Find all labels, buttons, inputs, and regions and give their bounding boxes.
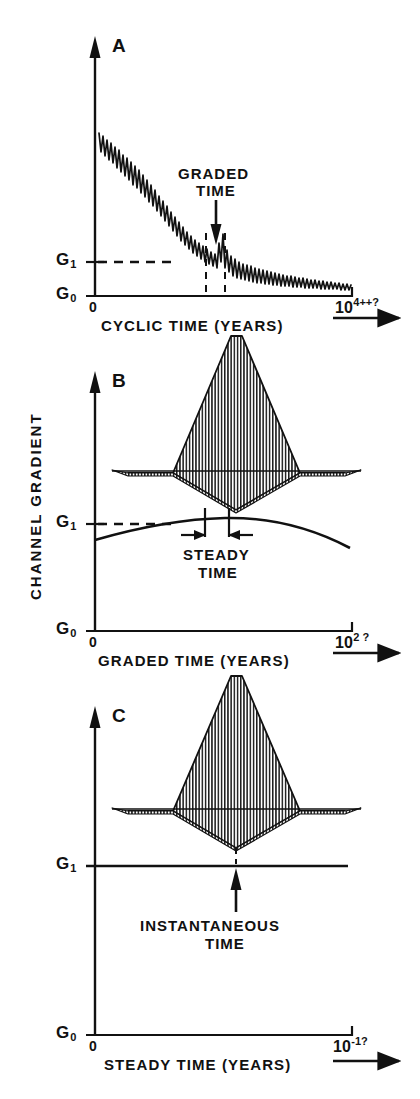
panel-a-g1-subscript: 1 — [70, 258, 76, 270]
panel-b-end-mantissa: 10 — [335, 634, 353, 651]
panel-a-annotation-line1: GRADED — [178, 166, 249, 182]
panel-letter-a: A — [112, 36, 126, 56]
panel-a-x-axis-title: CYCLIC TIME (YEARS) — [101, 318, 284, 334]
double-outward-arrow-icon — [181, 530, 253, 540]
figure-root: CHANNEL GRADIENT — [0, 0, 420, 1099]
panel-b-g1-subscript: 1 — [70, 520, 76, 532]
panel-b-g1-letter: G — [56, 512, 69, 531]
panel-a-end-exponent: 4++? — [353, 296, 379, 308]
panel-b-g0-letter: G — [56, 619, 69, 638]
panel-a-g1-label: G1 — [56, 251, 75, 269]
panel-b-x-axis — [86, 622, 352, 632]
panel-a-y-axis — [90, 36, 101, 296]
panel-b-g1-label: G1 — [56, 513, 75, 531]
panel-b-x-axis-title: GRADED TIME (YEARS) — [98, 653, 290, 669]
panel-c-x-axis — [86, 1026, 352, 1036]
panel-a-g0-subscript: 0 — [70, 292, 76, 304]
panel-a-x-axis — [86, 287, 352, 297]
panel-b-bowtie-symbol — [112, 336, 361, 513]
y-axis-arrowhead-b — [90, 371, 101, 393]
panel-b-annotation-line2: TIME — [198, 565, 238, 581]
panel-b-origin-label: 0 — [89, 635, 97, 650]
panel-c-annotation-line2: TIME — [205, 936, 245, 952]
panel-a-x-axis-end-value: 104++? — [335, 300, 378, 317]
panel-b-plot — [86, 336, 399, 653]
up-arrow-icon — [231, 868, 242, 912]
panel-c-x-axis-end-value: 10-1? — [333, 1039, 367, 1056]
panel-a-g1-letter: G — [56, 250, 69, 269]
panel-letter-b: B — [112, 371, 126, 391]
panel-c-g1-subscript: 1 — [70, 862, 76, 874]
panel-b-g0-label: G0 — [56, 620, 75, 638]
panel-b-annotation-line1: STEADY — [183, 547, 250, 563]
panel-a-end-mantissa: 10 — [335, 299, 353, 316]
panel-b-gradient-curve — [95, 518, 350, 548]
panel-c-g0-subscript: 0 — [70, 1031, 76, 1043]
panel-a-g0-letter: G — [56, 284, 69, 303]
panel-letter-c: C — [112, 706, 126, 726]
panel-c-g1-label: G1 — [56, 855, 75, 873]
panel-b-g0-subscript: 0 — [70, 627, 76, 639]
panel-c-g1-letter: G — [56, 854, 69, 873]
y-axis-arrowhead-a — [90, 36, 101, 58]
panel-a-origin-label: 0 — [89, 300, 97, 315]
panel-c-plot — [86, 676, 399, 1061]
panel-c-annotation-line1: INSTANTANEOUS — [140, 918, 280, 934]
panel-c-origin-label: 0 — [89, 1039, 97, 1054]
panel-b-y-axis — [90, 371, 101, 631]
panel-a-g0-label: G0 — [56, 285, 75, 303]
panel-c-x-axis-title: STEADY TIME (YEARS) — [104, 1057, 291, 1073]
panel-c-end-exponent: -1? — [351, 1035, 368, 1047]
panel-b-x-axis-end-value: 102 ? — [335, 635, 369, 652]
panel-b-end-exponent: 2 ? — [353, 631, 369, 643]
panel-c-end-mantissa: 10 — [333, 1038, 351, 1055]
down-arrow-icon — [211, 200, 222, 245]
panel-a-noisy-gradient-curve — [99, 133, 351, 290]
y-axis-arrowhead-c — [90, 706, 101, 728]
panel-c-y-axis — [90, 706, 101, 1035]
panel-c-g0-letter: G — [56, 1023, 69, 1042]
panel-a-annotation-line2: TIME — [196, 183, 236, 199]
panel-c-g0-label: G0 — [56, 1024, 75, 1042]
panel-c-bowtie-symbol — [112, 676, 361, 851]
